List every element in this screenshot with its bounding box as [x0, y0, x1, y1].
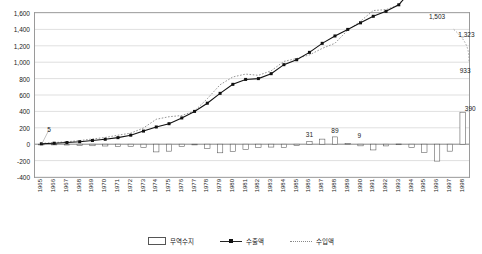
bar-trade-balance: [422, 144, 427, 152]
exports-marker: [142, 130, 145, 133]
bar-trade-balance: [256, 144, 261, 147]
x-tick-label: 1969: [88, 179, 94, 192]
bar-trade-balance: [320, 139, 325, 144]
x-tick-label: 1973: [140, 179, 146, 192]
x-tick-label: 1968: [76, 179, 82, 192]
imports-line: [41, 0, 462, 143]
legend-label-imports: 수입액: [316, 236, 334, 246]
x-tick-label: 1984: [280, 179, 286, 192]
dotted-line-icon: [290, 238, 312, 245]
bar-trade-balance: [332, 137, 337, 144]
x-tick-label: 1978: [203, 179, 209, 192]
data-label: 31: [306, 131, 313, 138]
data-label: 5: [47, 126, 51, 133]
data-label: 1,503: [429, 13, 445, 20]
exports-marker: [193, 110, 196, 113]
bar-trade-balance: [154, 144, 159, 152]
exports-marker: [257, 77, 260, 80]
exports-marker: [231, 83, 234, 86]
bar-series-trade-balance: [39, 112, 466, 161]
exports-marker: [180, 116, 183, 119]
bar-trade-balance: [205, 144, 210, 149]
x-tick-label: 1966: [50, 179, 56, 192]
exports-marker: [104, 138, 107, 141]
data-label: 933: [460, 66, 471, 73]
trade-statistics-chart: 1,6001,4001,2001,0008006004002000-200-40…: [0, 0, 482, 254]
bar-trade-balance: [115, 144, 120, 146]
x-tick-label: 1996: [433, 179, 439, 192]
exports-marker: [333, 34, 336, 37]
exports-marker: [372, 15, 375, 18]
bar-trade-balance: [281, 144, 286, 147]
bar-trade-balance: [460, 112, 465, 144]
x-tick-label: 1995: [420, 179, 426, 192]
exports-marker: [219, 92, 222, 95]
bar-trade-balance: [294, 144, 299, 145]
data-label: 1,323: [458, 31, 474, 38]
x-tick-label: 1981: [242, 179, 248, 192]
bar-trade-balance: [358, 144, 363, 146]
bar-trade-balance: [434, 144, 439, 161]
x-tick-label: 1992: [382, 179, 388, 192]
bar-trade-balance: [447, 144, 452, 151]
exports-marker: [359, 21, 362, 24]
bar-trade-balance: [243, 144, 248, 149]
bar-trade-balance: [307, 142, 312, 145]
x-tick-label: 1976: [178, 179, 184, 192]
bar-trade-balance: [128, 144, 133, 146]
chart-legend: 무역수지 수출액 수입액: [0, 234, 482, 248]
x-tick-label: 1994: [408, 179, 414, 192]
line-marker-icon: [220, 238, 242, 245]
x-tick-label: 1974: [152, 179, 158, 192]
x-tick-label: 1970: [101, 179, 107, 192]
x-tick-label: 1985: [293, 179, 299, 192]
exports-marker: [53, 142, 56, 145]
exports-marker: [78, 140, 81, 143]
bar-trade-balance: [217, 144, 222, 153]
bar-trade-balance: [230, 144, 235, 151]
bar-trade-balance: [64, 144, 69, 145]
x-tick-label: 1975: [165, 179, 171, 192]
bar-trade-balance: [371, 144, 376, 150]
x-tick-label: 1983: [267, 179, 273, 192]
exports-marker: [270, 72, 273, 75]
legend-item-exports: 수출액: [220, 236, 264, 246]
x-tick-label: 1993: [395, 179, 401, 192]
exports-marker: [244, 78, 247, 81]
exports-line: [41, 0, 462, 144]
exports-marker: [282, 63, 285, 66]
x-tick-label: 1979: [216, 179, 222, 192]
x-tick-label: 1971: [114, 179, 120, 192]
chart-canvas: [0, 0, 482, 254]
exports-marker: [295, 58, 298, 61]
x-tick-label: 1965: [37, 179, 43, 192]
line-series-imports: [41, 0, 462, 143]
bar-trade-balance: [166, 144, 171, 151]
exports-marker: [206, 102, 209, 105]
legend-label-trade-balance: 무역수지: [170, 236, 194, 246]
exports-marker: [346, 28, 349, 31]
bar-trade-balance: [268, 144, 273, 147]
gridlines: [35, 13, 469, 177]
line-series-exports: [40, 0, 464, 145]
x-tick-label: 1977: [191, 179, 197, 192]
x-tick-label: 1982: [254, 179, 260, 192]
x-axis-labels: 1965196619671968196919701971197219731974…: [34, 179, 470, 209]
bar-trade-balance: [396, 144, 401, 145]
x-tick-label: 1972: [127, 179, 133, 192]
x-tick-label: 1989: [344, 179, 350, 192]
exports-marker: [129, 134, 132, 137]
x-tick-label: 1990: [357, 179, 363, 192]
legend-item-imports: 수입액: [290, 236, 334, 246]
bar-trade-balance: [192, 144, 197, 145]
bar-trade-balance: [103, 144, 108, 146]
x-tick-label: 1997: [446, 179, 452, 192]
bar-swatch-icon: [148, 237, 166, 245]
bar-trade-balance: [383, 144, 388, 146]
bar-trade-balance: [409, 144, 414, 147]
exports-marker: [321, 42, 324, 45]
legend-item-trade-balance: 무역수지: [148, 236, 194, 246]
legend-label-exports: 수출액: [246, 236, 264, 246]
data-label: 9: [357, 132, 361, 139]
bar-trade-balance: [90, 144, 95, 146]
